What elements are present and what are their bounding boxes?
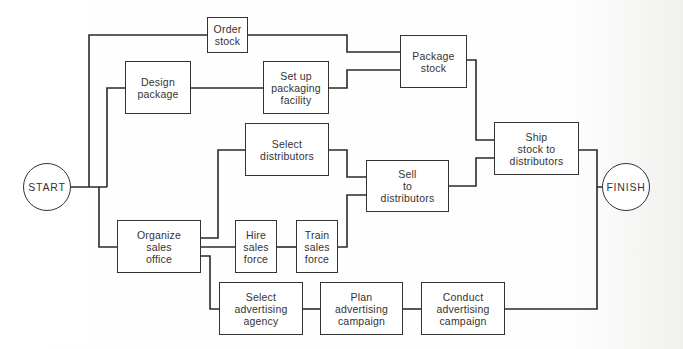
node-organize-sales-office: Organize sales office xyxy=(117,220,201,273)
edge-select-distributors-sell xyxy=(329,150,366,177)
edge-start-design-package xyxy=(107,88,125,187)
edge-package-ship xyxy=(467,60,494,140)
edge-order-package-stock xyxy=(248,35,400,52)
node-setup-packaging-facility: Set up packaging facility xyxy=(263,61,329,114)
edge-organize-select-agency xyxy=(201,256,219,309)
start-node: START xyxy=(23,163,71,211)
finish-node: FINISH xyxy=(602,163,650,211)
node-order-stock: Order stock xyxy=(207,17,248,53)
node-select-advertising-agency: Select advertising agency xyxy=(219,282,303,335)
edge-start-organize-sales xyxy=(99,187,117,247)
node-ship-stock: Ship stock to distributors xyxy=(494,122,579,175)
edge-ship-finish xyxy=(579,150,602,187)
node-plan-advertising-campaign: Plan advertising campaign xyxy=(320,282,403,335)
node-package-stock: Package stock xyxy=(400,35,467,88)
node-conduct-advertising-campaign: Conduct advertising campaign xyxy=(421,282,505,335)
node-select-distributors: Select distributors xyxy=(245,123,329,176)
node-sell-to-distributors: Sell to distributors xyxy=(366,160,449,212)
edge-train-sell xyxy=(338,195,366,247)
node-hire-sales-force: Hire sales force xyxy=(235,220,277,273)
node-train-sales-force: Train sales force xyxy=(296,220,338,273)
edge-conduct-finish xyxy=(505,187,597,309)
edge-setup-package-stock xyxy=(329,70,400,88)
node-design-package: Design package xyxy=(125,61,191,114)
edge-sell-ship xyxy=(449,158,494,186)
